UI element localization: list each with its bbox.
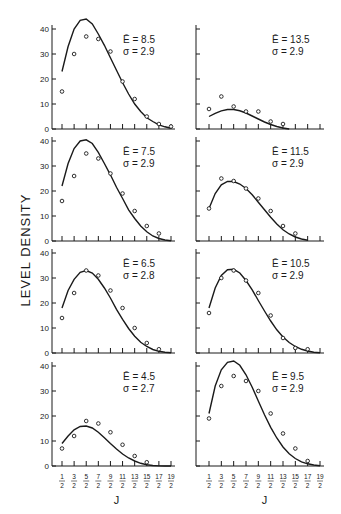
sigma-annotation: σ = 2.9 [272, 46, 304, 57]
data-point [109, 289, 113, 293]
x-tick-label-denominator: 2 [169, 482, 173, 489]
data-point [244, 279, 248, 283]
y-tick-label: 0 [45, 462, 50, 471]
data-point [269, 209, 273, 213]
x-tick-label-numerator: 1 [207, 473, 211, 480]
x-tick-label-denominator: 2 [97, 482, 101, 489]
data-point [257, 110, 261, 114]
x-tick-label-numerator: 5 [232, 473, 236, 480]
data-point [220, 384, 224, 388]
y-tick-label: 40 [40, 25, 49, 34]
sigma-annotation: σ = 2.8 [123, 270, 155, 281]
data-point [207, 207, 211, 211]
data-point [60, 447, 64, 451]
data-point [269, 314, 273, 318]
data-point [121, 306, 125, 310]
data-point [72, 174, 76, 178]
fitted-curve [209, 182, 308, 241]
x-tick-label-numerator: 19 [316, 473, 324, 480]
mean-energy-annotation: Ē = 6.5 [123, 258, 155, 269]
data-point [145, 224, 149, 228]
data-point [72, 291, 76, 295]
data-point [84, 419, 88, 423]
data-point [232, 105, 236, 109]
data-point [220, 276, 224, 280]
data-point [207, 311, 211, 315]
mean-energy-annotation: Ē = 7.5 [123, 146, 155, 157]
data-point [157, 122, 161, 126]
x-tick-label-denominator: 2 [60, 482, 64, 489]
x-tick-label-denominator: 2 [157, 482, 161, 489]
data-point [145, 460, 149, 464]
panel-right-2: Ē = 11.5σ = 2.9 [196, 137, 324, 241]
x-tick-label-numerator: 5 [84, 473, 88, 480]
data-point [306, 459, 310, 463]
y-tick-label: 0 [45, 349, 50, 358]
data-point [145, 341, 149, 345]
panel-left-4: 010203040Ē = 4.5σ = 2.7 [40, 362, 175, 471]
mean-energy-annotation: Ē = 11.5 [272, 146, 309, 157]
x-tick-label-numerator: 11 [267, 473, 274, 480]
data-point [121, 192, 125, 196]
x-tick-label-numerator: 13 [279, 473, 287, 480]
mean-energy-annotation: Ē = 10.5 [272, 258, 310, 269]
data-point [97, 422, 101, 426]
y-tick-label: 30 [40, 162, 49, 171]
data-point [294, 447, 298, 451]
panel-left-2: 010203040Ē = 7.5σ = 2.9 [40, 137, 175, 246]
x-tick-label-denominator: 2 [257, 482, 261, 489]
x-tick-label-numerator: 7 [244, 473, 248, 480]
data-point [207, 417, 211, 421]
data-point [133, 454, 137, 458]
sigma-annotation: σ = 2.9 [123, 158, 155, 169]
y-tick-label: 20 [40, 187, 49, 196]
sigma-annotation: σ = 2.9 [272, 383, 304, 394]
x-tick-label-denominator: 2 [281, 482, 285, 489]
data-point [257, 291, 261, 295]
fitted-curve [209, 269, 320, 353]
mean-energy-annotation: Ē = 13.5 [272, 34, 310, 45]
y-tick-label: 0 [45, 237, 50, 246]
data-point [60, 316, 64, 320]
data-point [232, 269, 236, 273]
x-tick-label-numerator: 1 [60, 473, 64, 480]
data-point [97, 37, 101, 41]
x-tick-label-denominator: 2 [220, 482, 224, 489]
y-tick-label: 40 [40, 362, 49, 371]
data-point [84, 269, 88, 273]
y-tick-label: 10 [40, 324, 49, 333]
data-point [157, 347, 161, 351]
data-point [60, 199, 64, 203]
x-tick-label-numerator: 3 [72, 473, 76, 480]
data-point [60, 90, 64, 94]
data-point [269, 412, 273, 416]
data-point [133, 209, 137, 213]
sigma-annotation: σ = 2.7 [123, 383, 155, 394]
data-point [220, 95, 224, 99]
x-tick-label-denominator: 2 [84, 482, 88, 489]
y-tick-label: 10 [40, 212, 49, 221]
data-point [169, 125, 173, 129]
data-point [84, 35, 88, 39]
data-point [281, 336, 285, 340]
data-point [84, 152, 88, 156]
y-tick-label: 40 [40, 249, 49, 258]
data-point [244, 110, 248, 114]
x-tick-label-numerator: 13 [131, 473, 139, 480]
x-tick-label-numerator: 19 [167, 473, 175, 480]
data-point [97, 274, 101, 278]
x-tick-label-numerator: 15 [143, 473, 151, 480]
x-tick-label-numerator: 9 [257, 473, 261, 480]
mean-energy-annotation: Ē = 4.5 [123, 371, 155, 382]
x-tick-label-numerator: 9 [109, 473, 113, 480]
x-tick-label-denominator: 2 [109, 482, 113, 489]
x-tick-label-denominator: 2 [145, 482, 149, 489]
y-tick-label: 20 [40, 412, 49, 421]
sigma-annotation: σ = 2.9 [123, 46, 155, 57]
level-density-figure: LEVEL DENSITY 010203040Ē = 8.5σ = 2.9Ē =… [0, 0, 341, 514]
x-tick-label-denominator: 2 [244, 482, 248, 489]
data-point [121, 443, 125, 447]
panel-right-3: Ē = 10.5σ = 2.9 [196, 249, 324, 353]
y-tick-label: 0 [45, 125, 50, 134]
y-tick-label: 20 [40, 75, 49, 84]
